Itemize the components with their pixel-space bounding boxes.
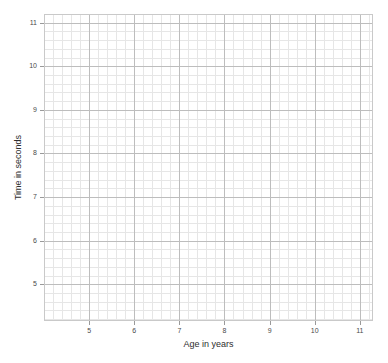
gridline-horizontal-minor [44, 136, 372, 137]
y-axis-tick [40, 153, 44, 154]
gridline-vertical-major [134, 14, 135, 320]
gridline-horizontal-major [44, 241, 372, 242]
gridline-horizontal-minor [44, 23, 372, 24]
plot-area [44, 14, 372, 320]
gridline-horizontal-minor [44, 110, 372, 111]
gridline-vertical-minor [80, 14, 81, 320]
gridline-vertical-minor [125, 14, 126, 320]
gridline-horizontal-minor [44, 58, 372, 59]
gridline-vertical-minor [62, 14, 63, 320]
x-axis-tick-label: 10 [295, 327, 335, 334]
gridline-horizontal-minor [44, 75, 372, 76]
y-axis-tick [40, 284, 44, 285]
gridline-vertical-minor [333, 14, 334, 320]
gridline-vertical-minor [360, 14, 361, 320]
gridline-horizontal-minor [44, 153, 372, 154]
gridline-horizontal-minor [44, 40, 372, 41]
y-axis-tick-label: 10 [18, 62, 37, 69]
gridline-horizontal-minor [44, 197, 372, 198]
gridline-horizontal-minor [44, 293, 372, 294]
gridline-vertical-minor [243, 14, 244, 320]
gridline-horizontal-minor [44, 206, 372, 207]
gridline-vertical-minor [233, 14, 234, 320]
gridline-vertical-minor [342, 14, 343, 320]
y-axis-tick [40, 23, 44, 24]
gridline-vertical-minor [224, 14, 225, 320]
gridline-horizontal-minor [44, 84, 372, 85]
gridline-horizontal-major [44, 110, 372, 111]
gridline-vertical-minor [71, 14, 72, 320]
gridline-vertical-minor [143, 14, 144, 320]
x-axis-tick-label: 7 [159, 327, 199, 334]
gridline-horizontal-major [44, 153, 372, 154]
gridline-vertical-major [315, 14, 316, 320]
gridline-vertical-minor [279, 14, 280, 320]
gridline-horizontal-minor [44, 49, 372, 50]
gridline-horizontal-major [44, 66, 372, 67]
x-axis-tick [134, 321, 135, 325]
x-axis-tick [270, 321, 271, 325]
x-axis-tick-label: 11 [340, 327, 380, 334]
gridline-horizontal-minor [44, 249, 372, 250]
gridline-vertical-minor [288, 14, 289, 320]
minor-gridlines [44, 14, 372, 320]
gridline-vertical-minor [252, 14, 253, 320]
gridline-vertical-minor [306, 14, 307, 320]
x-axis-tick-label: 5 [69, 327, 109, 334]
y-axis-tick [40, 110, 44, 111]
gridline-vertical-minor [270, 14, 271, 320]
y-axis-tick [40, 197, 44, 198]
gridline-vertical-minor [369, 14, 370, 320]
gridline-vertical-minor [134, 14, 135, 320]
x-axis-tick-label: 6 [114, 327, 154, 334]
gridline-horizontal-minor [44, 284, 372, 285]
gridline-horizontal-minor [44, 162, 372, 163]
axis-spine-bottom [44, 320, 373, 321]
gridline-horizontal-minor [44, 267, 372, 268]
gridline-horizontal-minor [44, 223, 372, 224]
x-axis-tick [360, 321, 361, 325]
major-gridlines [44, 14, 372, 320]
x-axis-title: Age in years [44, 340, 373, 349]
gridline-horizontal-minor [44, 188, 372, 189]
gridline-vertical-minor [351, 14, 352, 320]
gridline-vertical-minor [89, 14, 90, 320]
x-axis-tick [89, 321, 90, 325]
gridline-vertical-minor [98, 14, 99, 320]
gridline-horizontal-minor [44, 119, 372, 120]
gridline-vertical-minor [206, 14, 207, 320]
gridline-vertical-minor [315, 14, 316, 320]
gridline-vertical-major [179, 14, 180, 320]
y-axis-tick [40, 241, 44, 242]
y-axis-tick-label: 5 [18, 280, 37, 287]
gridline-horizontal-minor [44, 66, 372, 67]
gridline-horizontal-minor [44, 145, 372, 146]
gridline-horizontal-major [44, 23, 372, 24]
gridline-horizontal-minor [44, 232, 372, 233]
x-axis-tick-label: 9 [250, 327, 290, 334]
gridline-horizontal-major [44, 197, 372, 198]
gridline-horizontal-minor [44, 92, 372, 93]
axis-spine-top [44, 14, 373, 15]
y-axis-title: Time in seconds [14, 88, 23, 248]
x-axis-tick [179, 321, 180, 325]
gridline-horizontal-minor [44, 241, 372, 242]
gridline-horizontal-major [44, 284, 372, 285]
gridline-horizontal-minor [44, 180, 372, 181]
axis-spine-left [44, 14, 45, 321]
gridline-vertical-minor [188, 14, 189, 320]
axis-spine-right [372, 14, 373, 321]
x-axis-tick [315, 321, 316, 325]
gridline-horizontal-minor [44, 127, 372, 128]
x-axis-tick [224, 321, 225, 325]
gridline-vertical-major [270, 14, 271, 320]
chart-figure: 567891011567891011 Age in years Time in … [0, 0, 388, 363]
gridline-horizontal-minor [44, 31, 372, 32]
x-axis-tick-label: 8 [204, 327, 244, 334]
gridline-horizontal-minor [44, 276, 372, 277]
gridline-vertical-minor [215, 14, 216, 320]
gridline-horizontal-minor [44, 215, 372, 216]
y-axis-tick [40, 66, 44, 67]
gridline-vertical-minor [53, 14, 54, 320]
gridline-horizontal-minor [44, 258, 372, 259]
